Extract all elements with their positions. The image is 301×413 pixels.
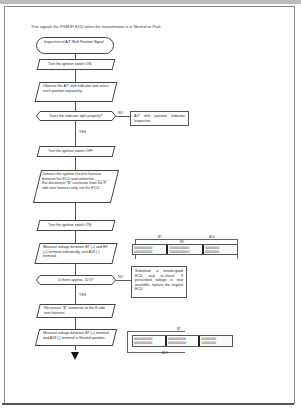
pin-row: OOOOOOOOOO	[134, 341, 164, 345]
step-ignition-on-label: Turn the ignition switch ON.	[38, 59, 114, 69]
connector-body-2: OOOOOOOOOOOOOOOOOOOO OOOOOOOOOOOOOOOOOOO…	[132, 335, 233, 347]
connector-segment: OOOOOOOOOOOOOOOO	[200, 336, 232, 346]
start-terminator: Inspection of A/T Shift Position Signal	[36, 37, 114, 54]
step-ignition-off: Turn the ignition switch OFF.	[38, 146, 114, 157]
connector-segment: OOOOOOOOOOOOOOOOOOOO	[133, 336, 165, 346]
step-reconnect-label: Reconnect "B" connector to the R side wi…	[38, 304, 114, 317]
decision2-yes: YES	[79, 293, 86, 297]
pin-row: OOOOOOOOOO	[168, 341, 198, 345]
label-a18-2: A18	[162, 351, 167, 355]
step-measure-voltage-1-label: Measure voltage between B7 (+) and B9 (+…	[37, 243, 115, 261]
step-ignition-off-label: Turn the ignition switch OFF.	[38, 146, 114, 156]
indicator-inspection-box: A/T shift position Indicator Inspection	[130, 111, 189, 126]
pin-row: OOOOOOOO	[205, 250, 236, 254]
pin-row: OOOOOOOO	[201, 341, 231, 345]
intro-text: This signals the PGM-FI ECU when the tra…	[31, 24, 162, 29]
top-border	[0, 0, 301, 4]
step-reconnect: Reconnect "B" connector to the R side wi…	[38, 304, 114, 318]
step-ignition-on-2-label: Turn the ignition switch ON.	[38, 220, 114, 230]
step-ignition-on-2: Turn the ignition switch ON.	[38, 220, 114, 231]
pin-row: OOOOOOOOOOO	[169, 250, 200, 254]
no-connector-1	[116, 116, 130, 117]
start-label: Inspection of A/T Shift Position Signal	[44, 40, 104, 44]
continue-arrow-icon	[71, 352, 79, 360]
step-measure-voltage-1: Measure voltage between B7 (+) and B9 (+…	[37, 243, 115, 264]
decision1-no: NO	[118, 111, 123, 115]
substitute-ecu-box: Substitute a known-good ECU and re-check…	[131, 266, 187, 298]
pin-row: OOOOOOOOOO	[134, 250, 165, 254]
step-connect-checker: Connect the system checker harness betwe…	[37, 170, 115, 203]
label-a18-1: A18	[209, 235, 214, 239]
decision-voltage: Is there approx. 10 V?	[36, 275, 116, 285]
connector-body-1: OOOOOOOOOOOOOOOOOOOO OOOOOOOOOOOOOOOOOOO…	[132, 244, 238, 255]
decision2-no: NO	[118, 275, 123, 279]
step-ignition-on: Turn the ignition switch ON.	[38, 59, 114, 70]
decision-indicator: Does the indicator light properly?	[36, 111, 116, 121]
step-measure-voltage-2: Measure voltage between B7 (+) terminal …	[37, 329, 115, 346]
label-b7-2: B7	[177, 327, 181, 331]
decision-voltage-label: Is there approx. 10 V?	[36, 275, 116, 283]
step-measure-voltage-2-label: Measure voltage between B7 (+) terminal …	[37, 329, 115, 342]
connector-diagram-2: B7 A18 OOOOOOOOOOOOOOOOOOOO OOOOOOOOOOOO…	[125, 329, 235, 355]
decision-indicator-label: Does the indicator light properly?	[36, 111, 116, 119]
step-observe-indicator: Observe the A/T shift indicator and sele…	[37, 82, 115, 102]
label-b7-1: B7	[158, 235, 162, 239]
decision1-yes: YES	[79, 130, 86, 134]
connector-segment: OOOOOOOOOOOOOOOOOOOOOO	[168, 245, 201, 254]
connector-diagram-1: B7 B9 A18 OOOOOOOOOOOOOOOOOOOO OOOOOOOOO…	[130, 236, 240, 262]
step-observe-indicator-label: Observe the A/T shift indicator and sele…	[37, 82, 115, 95]
bottom-rule	[2, 403, 294, 405]
no-connector-2	[116, 280, 131, 281]
substitute-ecu-label: Substitute a known-good ECU and re-check…	[135, 269, 183, 291]
step-connect-checker-label: Connect the system checker harness betwe…	[37, 170, 115, 192]
connector-segment: OOOOOOOOOOOOOOOO	[204, 245, 237, 254]
connector-segment: OOOOOOOOOOOOOOOOOOOO	[133, 245, 166, 254]
connector-segment: OOOOOOOOOOOOOOOOOOOO	[167, 336, 199, 346]
indicator-inspection-label: A/T shift position Indicator Inspection	[134, 114, 185, 123]
